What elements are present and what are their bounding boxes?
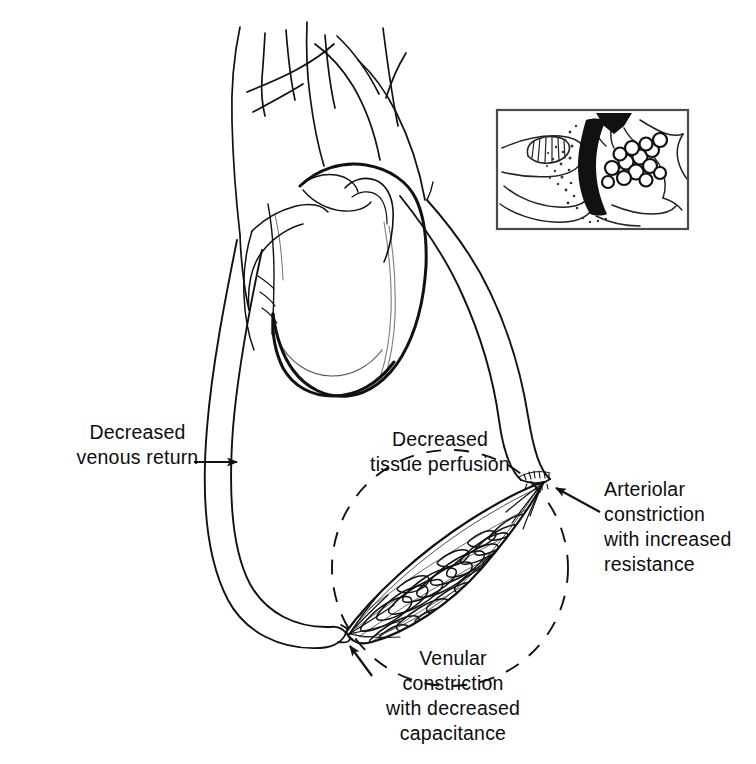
annotation-arrows: [194, 462, 600, 676]
label-decreased-tissue-perfusion: Decreased tissue perfusion: [345, 427, 535, 477]
capillary-bed: [346, 482, 544, 645]
microcirculation-detail-inset[interactable]: [497, 110, 688, 229]
label-decreased-venous-return: Decreased venous return: [50, 420, 225, 470]
label-venular-constriction: Venular constriction with decreased capa…: [338, 646, 568, 746]
heart-with-great-vessels: [232, 22, 426, 396]
label-arteriolar-constriction: Arteriolar constriction with increased r…: [604, 477, 756, 577]
arrow-arteriolar-constriction: [556, 488, 600, 512]
systemic-vein-left-side: [205, 240, 346, 648]
figure-root: Decreased venous return Decreased tissue…: [0, 0, 756, 764]
